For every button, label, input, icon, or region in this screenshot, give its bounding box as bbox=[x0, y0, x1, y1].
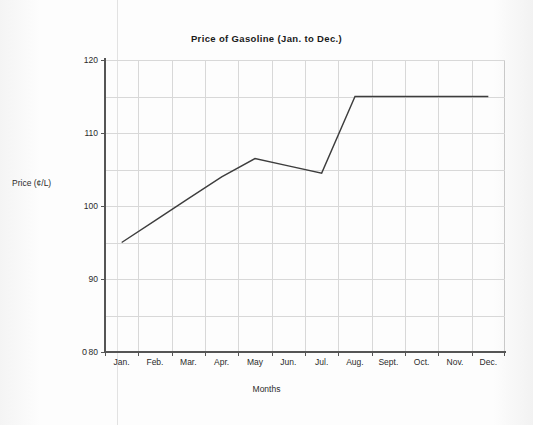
x-axis-tick-label: Feb. bbox=[138, 357, 171, 367]
y-axis-zero-label: 0 bbox=[82, 347, 87, 357]
x-axis-tick-label: Mar. bbox=[172, 357, 205, 367]
x-axis-tick-label: Jul. bbox=[305, 357, 338, 367]
x-axis-tick-label: Jan. bbox=[105, 357, 138, 367]
x-axis-tick-label: Aug. bbox=[338, 357, 371, 367]
y-axis-tick-label: 90 bbox=[66, 274, 98, 284]
x-axis-tick-labels: Jan.Feb.Mar.Apr.MayJun.Jul.Aug.Sept.Oct.… bbox=[105, 357, 505, 371]
x-axis-tick-label: Apr. bbox=[205, 357, 238, 367]
x-axis-tick-label: May bbox=[238, 357, 271, 367]
data-series-line bbox=[105, 60, 505, 352]
x-axis-tick-label: Nov. bbox=[438, 357, 471, 367]
x-axis-label: Months bbox=[0, 384, 533, 394]
y-axis-label: Price (¢/L) bbox=[12, 178, 51, 188]
x-axis-tick-label: Dec. bbox=[472, 357, 505, 367]
x-axis-tick-label: Sept. bbox=[372, 357, 405, 367]
x-axis-tick-label: Oct. bbox=[405, 357, 438, 367]
y-axis-tick-label: 120 bbox=[66, 55, 98, 65]
plot-area bbox=[105, 60, 505, 352]
x-axis-tick-label: Jun. bbox=[272, 357, 305, 367]
chart-title: Price of Gasoline (Jan. to Dec.) bbox=[0, 33, 533, 44]
y-axis-tick-label: 100 bbox=[66, 201, 98, 211]
y-axis-tick-labels: 1201101009080 bbox=[62, 60, 98, 352]
y-axis-tick-label: 110 bbox=[66, 128, 98, 138]
